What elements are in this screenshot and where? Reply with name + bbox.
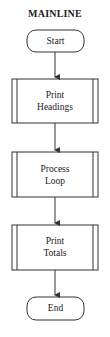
start-label: Start bbox=[27, 35, 84, 47]
print-totals-label: Print Totals bbox=[17, 235, 93, 259]
print-headings-line1: Print bbox=[17, 89, 93, 101]
process-loop-label: Process Loop bbox=[17, 163, 93, 187]
print-totals-line2: Totals bbox=[17, 247, 93, 259]
print-totals-line1: Print bbox=[17, 235, 93, 247]
process-loop-line2: Loop bbox=[17, 175, 93, 187]
print-headings-label: Print Headings bbox=[17, 89, 93, 113]
print-headings-line2: Headings bbox=[17, 101, 93, 113]
end-label: End bbox=[27, 302, 84, 314]
process-loop-line1: Process bbox=[17, 163, 93, 175]
